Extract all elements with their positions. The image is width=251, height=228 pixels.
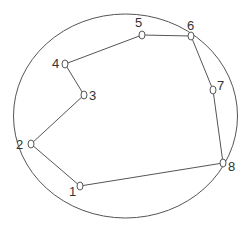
- edges-group: [31, 35, 223, 186]
- node-6: [188, 32, 194, 40]
- node-2: [28, 140, 34, 148]
- node-label-1: 1: [69, 184, 76, 199]
- node-3: [81, 91, 87, 99]
- node-label-6: 6: [187, 18, 194, 33]
- node-8: [220, 159, 226, 167]
- edge-6-7: [191, 36, 213, 90]
- diagram-canvas: 12345678: [0, 0, 251, 228]
- polygon-ellipse-diagram: 12345678: [0, 0, 251, 228]
- edge-5-6: [142, 35, 191, 36]
- edge-2-3: [31, 95, 84, 144]
- edge-4-5: [65, 35, 142, 64]
- node-4: [62, 60, 68, 68]
- node-1: [77, 182, 83, 190]
- node-label-2: 2: [16, 137, 23, 152]
- labels-group: 12345678: [16, 15, 235, 199]
- node-label-7: 7: [217, 78, 224, 93]
- enclosing-ellipse: [14, 14, 238, 218]
- edge-7-8: [213, 90, 223, 163]
- edge-3-4: [65, 64, 84, 95]
- node-label-3: 3: [89, 88, 96, 103]
- edge-8-1: [80, 163, 223, 186]
- node-label-5: 5: [135, 15, 142, 30]
- nodes-group: [28, 31, 226, 190]
- node-5: [139, 31, 145, 39]
- node-7: [210, 86, 216, 94]
- node-label-4: 4: [52, 56, 59, 71]
- node-label-8: 8: [228, 159, 235, 174]
